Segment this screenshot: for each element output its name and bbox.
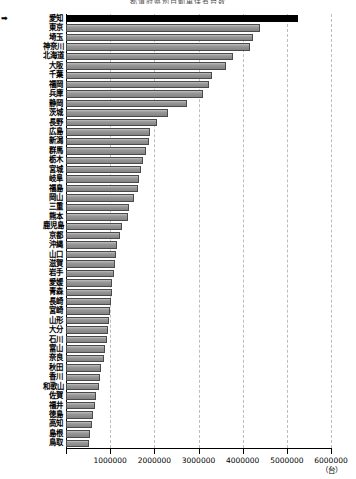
category-label-福岡: 福岡 [48,80,64,89]
category-label-奈良: 奈良 [48,354,64,363]
category-label-text: 福岡 [50,81,64,89]
bar-宮城 [66,166,141,173]
bar-沖縄 [66,241,117,248]
x-axis-tick-label: 5000000 [270,456,303,465]
category-label-沖縄: 沖縄 [48,241,64,250]
category-label-text: 広島 [50,128,64,136]
bar-山口 [66,251,116,258]
category-label-text: 千葉 [50,71,64,79]
bar-新潟 [66,138,149,145]
bar-石川 [66,336,107,343]
highlight-arrow-icon: ➡ [1,15,8,23]
category-label-text: 富山 [50,345,64,353]
category-label-福島: 福島 [48,184,64,193]
category-label-text: 鹿児島 [42,222,64,230]
category-label-text: 長崎 [50,298,64,306]
gridline [110,14,111,448]
bar-千葉 [66,72,212,79]
category-label-鹿児島: 鹿児島 [41,222,64,231]
bar-佐賀 [66,392,96,399]
bar-高知 [66,421,92,428]
bar-香川 [66,374,100,381]
plot-area [66,14,331,448]
bar-東京 [66,24,260,31]
bar-徳島 [66,411,93,418]
bar-長野 [66,119,157,126]
category-label-text: 和歌山 [42,383,64,391]
category-label-text: 山形 [50,317,64,325]
bar-島根 [66,430,90,437]
category-label-text: 神奈川 [42,43,64,51]
category-label-text: 福島 [50,185,64,193]
category-label-text: 沖縄 [50,241,64,249]
category-label-京都: 京都 [48,231,64,240]
category-label-text: 島根 [50,430,64,438]
bar-茨城 [66,109,168,116]
category-label-text: 宮崎 [50,307,64,315]
x-axis-tick [243,448,244,454]
category-label-text: 岐阜 [50,175,64,183]
category-label-text: 佐賀 [50,392,64,400]
gridline [287,14,288,448]
category-label-大阪: 大阪 [48,61,64,70]
bar-三重 [66,204,129,211]
category-label-宮崎: 宮崎 [48,307,64,316]
category-label-和歌山: 和歌山 [41,382,64,391]
bar-広島 [66,128,150,135]
category-label-滋賀: 滋賀 [48,260,64,269]
category-label-text: 群馬 [50,147,64,155]
category-label-text: 大阪 [50,62,64,70]
category-label-青森: 青森 [48,288,64,297]
category-label-岐阜: 岐阜 [48,175,64,184]
category-label-text: 埼玉 [50,34,64,42]
category-label-text: 香川 [50,373,64,381]
category-label-千葉: 千葉 [48,71,64,80]
category-label-鳥取: 鳥取 [48,439,64,448]
category-label-高知: 高知 [48,420,64,429]
x-axis-tick [331,448,332,454]
category-label-text: 宮城 [50,166,64,174]
category-label-茨城: 茨城 [48,109,64,118]
category-label-岩手: 岩手 [48,269,64,278]
x-axis-tick-label: 1000000 [93,456,126,465]
category-label-text: 高知 [50,420,64,428]
bar-兵庫 [66,90,203,97]
category-label-text: 徳島 [50,411,64,419]
category-label-島根: 島根 [48,429,64,438]
x-axis-tick-label: 4000000 [226,456,259,465]
category-label-三重: 三重 [48,203,64,212]
category-label-text: 三重 [50,203,64,211]
x-axis-tick [199,448,200,454]
category-label-text: 熊本 [50,213,64,221]
category-label-大分: 大分 [48,326,64,335]
category-label-text: 奈良 [50,354,64,362]
x-axis-unit-label: （台） [321,464,342,475]
bar-福島 [66,185,138,192]
bar-群馬 [66,147,146,154]
category-label-text: 青森 [50,288,64,296]
category-label-福井: 福井 [48,401,64,410]
category-label-熊本: 熊本 [48,212,64,221]
gridline [154,14,155,448]
x-axis-tick [287,448,288,454]
category-label-text: 山口 [50,251,64,259]
category-label-text: 大分 [50,326,64,334]
category-label-埼玉: 埼玉 [48,33,64,42]
bar-岐阜 [66,175,139,182]
x-axis-tick-label: 2000000 [138,456,171,465]
x-axis-tick-label: 3000000 [182,456,215,465]
category-label-富山: 富山 [48,344,64,353]
category-label-東京: 東京 [48,24,64,33]
category-label-text: 静岡 [50,100,64,108]
category-label-text: 鳥取 [50,439,64,447]
category-label-text: 東京 [50,24,64,32]
category-label-栃木: 栃木 [48,156,64,165]
category-label-佐賀: 佐賀 [48,392,64,401]
bar-大分 [66,326,108,333]
category-label-text: 京都 [50,232,64,240]
bar-岡山 [66,194,134,201]
x-axis-tick [110,448,111,454]
bar-静岡 [66,100,187,107]
bar-埼玉 [66,34,253,41]
bar-滋賀 [66,260,115,267]
